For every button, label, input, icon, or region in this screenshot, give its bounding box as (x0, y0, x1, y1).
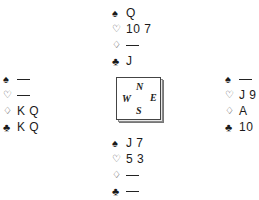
spade-icon: ♠ (225, 71, 236, 87)
east-hand: ♠ ♡ J 9 ♢ A ♣ 10 (225, 71, 257, 135)
north-clubs: J (126, 53, 133, 69)
compass-box: N W E S (116, 77, 161, 120)
west-hearts (17, 87, 30, 103)
void-dash (126, 175, 139, 176)
west-diamonds: K Q (17, 103, 39, 119)
south-diamonds (126, 167, 139, 183)
diamond-icon: ♢ (112, 37, 123, 53)
north-spades: Q (126, 5, 136, 21)
north-hearts-row: ♡ 10 7 (112, 21, 151, 37)
north-spades-row: ♠ Q (112, 5, 151, 21)
east-spades (239, 71, 252, 87)
south-diamonds-row: ♢ (112, 167, 144, 183)
club-icon: ♣ (3, 119, 14, 135)
north-diamonds-row: ♢ (112, 37, 151, 53)
west-diamonds-row: ♢ K Q (3, 103, 39, 119)
east-clubs-row: ♣ 10 (225, 119, 257, 135)
compass-north-label: N (136, 81, 143, 92)
void-dash (126, 191, 139, 192)
south-clubs (126, 183, 139, 199)
east-clubs: 10 (239, 119, 253, 135)
south-clubs-row: ♣ (112, 183, 144, 199)
heart-icon: ♡ (112, 21, 123, 37)
west-hand: ♠ ♡ ♢ K Q ♣ K Q (3, 71, 39, 135)
compass-west-label: W (122, 93, 131, 104)
north-clubs-row: ♣ J (112, 53, 151, 69)
east-diamonds-row: ♢ A (225, 103, 257, 119)
void-dash (126, 45, 139, 46)
south-spades: J 7 (126, 135, 144, 151)
compass-south-label: S (136, 105, 142, 116)
north-diamonds (126, 37, 139, 53)
spade-icon: ♠ (3, 71, 14, 87)
spade-icon: ♠ (112, 135, 123, 151)
compass-east-label: E (150, 92, 157, 103)
east-diamonds: A (239, 103, 248, 119)
west-spades-row: ♠ (3, 71, 39, 87)
south-hand: ♠ J 7 ♡ 5 3 ♢ ♣ (112, 135, 144, 199)
north-hearts: 10 7 (126, 21, 151, 37)
club-icon: ♣ (225, 119, 236, 135)
compass-face: N W E S (116, 77, 161, 120)
club-icon: ♣ (112, 183, 123, 199)
void-dash (239, 79, 252, 80)
heart-icon: ♡ (3, 87, 14, 103)
diamond-icon: ♢ (3, 103, 14, 119)
east-hearts-row: ♡ J 9 (225, 87, 257, 103)
south-hearts-row: ♡ 5 3 (112, 151, 144, 167)
south-spades-row: ♠ J 7 (112, 135, 144, 151)
spade-icon: ♠ (112, 5, 123, 21)
diamond-icon: ♢ (112, 167, 123, 183)
east-hearts: J 9 (239, 87, 257, 103)
south-hearts: 5 3 (126, 151, 144, 167)
club-icon: ♣ (112, 53, 123, 69)
diamond-icon: ♢ (225, 103, 236, 119)
north-hand: ♠ Q ♡ 10 7 ♢ ♣ J (112, 5, 151, 69)
west-clubs: K Q (17, 119, 39, 135)
west-clubs-row: ♣ K Q (3, 119, 39, 135)
heart-icon: ♡ (112, 151, 123, 167)
void-dash (17, 79, 30, 80)
void-dash (17, 95, 30, 96)
west-hearts-row: ♡ (3, 87, 39, 103)
heart-icon: ♡ (225, 87, 236, 103)
west-spades (17, 71, 30, 87)
east-spades-row: ♠ (225, 71, 257, 87)
